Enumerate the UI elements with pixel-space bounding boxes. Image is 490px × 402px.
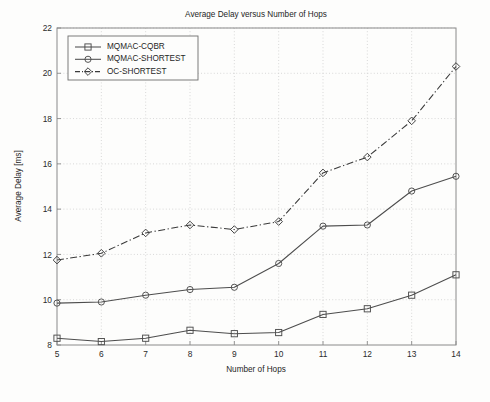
legend-label: MQMAC-SHORTEST	[107, 54, 186, 63]
x-tick-label: 5	[55, 349, 60, 359]
y-tick-label: 14	[43, 204, 53, 214]
y-tick-label: 16	[43, 159, 53, 169]
x-tick-label: 14	[451, 349, 461, 359]
y-tick-label: 10	[43, 295, 53, 305]
chart-figure: Average Delay versus Number of Hops 8101…	[0, 0, 490, 402]
x-axis-label: Number of Hops	[226, 365, 286, 374]
chart-title: Average Delay versus Number of Hops	[185, 10, 327, 19]
x-tick-label: 6	[99, 349, 104, 359]
y-axis-label: Average Delay [ms]	[14, 150, 23, 221]
y-tick-label: 20	[43, 68, 53, 78]
y-tick-label: 18	[43, 114, 53, 124]
legend-item-mqmac-cqbr[interactable]: MQMAC-CQBR	[75, 42, 165, 51]
legend-label: OC-SHORTEST	[107, 67, 166, 76]
x-tick-label: 7	[143, 349, 148, 359]
legend-label: MQMAC-CQBR	[107, 42, 165, 51]
chart-legend[interactable]: MQMAC-CQBRMQMAC-SHORTESTOC-SHORTEST	[68, 36, 198, 80]
x-tick-label: 11	[319, 349, 328, 359]
average-delay-line-chart: Average Delay versus Number of Hops 8101…	[0, 0, 490, 402]
x-tick-label: 10	[274, 349, 284, 359]
x-tick-label: 12	[363, 349, 373, 359]
x-tick-label: 13	[407, 349, 417, 359]
x-tick-label: 9	[232, 349, 237, 359]
y-tick-label: 12	[43, 250, 53, 260]
x-tick-label: 8	[188, 349, 193, 359]
y-tick-label: 8	[47, 340, 52, 350]
legend-item-oc-shortest[interactable]: OC-SHORTEST	[75, 67, 166, 76]
y-tick-label: 22	[43, 23, 53, 33]
